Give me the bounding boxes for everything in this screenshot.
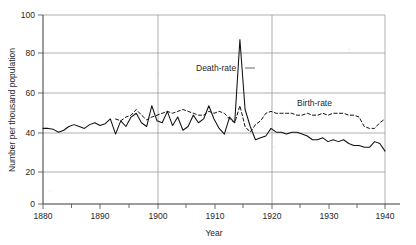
x-tick-label-1940: 1940	[376, 211, 395, 221]
chart-background	[0, 0, 416, 245]
x-axis-title: Year	[205, 228, 222, 238]
x-tick-label-1930: 1930	[320, 211, 339, 221]
x-tick-label-1880: 1880	[34, 211, 53, 221]
line-chart: 100 80 60 40 20 0 1880 1890 1900	[0, 0, 416, 245]
annotation-birth-rate: Birth-rate	[297, 98, 332, 108]
x-tick-label-1910: 1910	[206, 211, 225, 221]
y-tick-label-40: 40	[26, 128, 36, 138]
x-tick-label-1890: 1890	[91, 211, 110, 221]
x-tick-label-1900: 1900	[149, 211, 168, 221]
y-axis-title: Number per thousand population	[7, 48, 17, 172]
y-tick-label-100: 100	[21, 10, 35, 20]
annotation-label-birth-rate: Birth-rate	[297, 98, 332, 108]
x-tick-label-1920: 1920	[263, 211, 282, 221]
y-tick-label-60: 60	[26, 88, 36, 98]
y-tick-label-0: 0	[30, 199, 35, 209]
y-tick-label-80: 80	[26, 48, 36, 58]
y-tick-label-20: 20	[26, 167, 36, 177]
chart-container: 100 80 60 40 20 0 1880 1890 1900	[0, 0, 416, 245]
annotation-label-death-rate: Death-rate	[196, 63, 236, 73]
